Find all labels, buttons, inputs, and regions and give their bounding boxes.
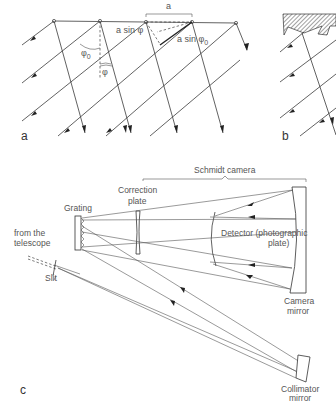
perp-out [146,22,160,44]
collimator-label-2: mirror [289,393,311,402]
camera-rays [82,190,296,289]
camera-mirror [290,187,306,293]
panel-a: a a sin φ a sin φ0 φ0 φ a [21,1,249,143]
collimator-mirror [296,355,310,382]
correction-plate-label-1: Correction [118,185,157,195]
correction-plate-label-2: plate [128,196,147,206]
grating-label: Grating [64,203,92,213]
grating [75,216,81,250]
grating-grooves [81,218,84,248]
camera-mirror-label-1: Camera [284,296,315,306]
panel-label-b: b [282,129,289,143]
panel-b: b [280,14,336,143]
correction-plate [136,211,140,254]
path-diff-in-label: a sin φ0 [177,34,208,46]
panel-label-a: a [21,129,28,143]
angle-phi-label: φ [102,67,108,77]
schmidt-camera-label: Schmidt camera [194,165,256,175]
path-diff-out-label: a sin φ [116,25,144,35]
spacing-brace [146,14,192,17]
angle-phi0-label: φ0 [81,48,91,60]
incident-rays-b [280,32,336,136]
slit-label: Slit [45,273,57,283]
slit-points [52,19,237,24]
from-telescope-label-2: telescope [14,238,51,248]
camera-mirror-label-2: mirror [287,306,309,316]
detector-label-2: plate) [268,238,289,248]
panel-label-c: c [20,383,26,397]
perp-in [157,22,192,32]
spacing-label: a [166,1,171,11]
blazed-grating-surface [283,14,336,35]
detector-plate [211,212,216,266]
panel-c: Schmidt camera Grating Correction plate … [14,165,319,402]
diagram-canvas: a a sin φ a sin φ0 φ0 φ a b Schmidt came… [0,0,336,402]
from-telescope-label-1: from the [14,228,45,238]
angle-arc-phi [100,63,111,64]
schmidt-camera-bracket [143,176,306,182]
